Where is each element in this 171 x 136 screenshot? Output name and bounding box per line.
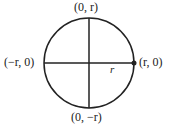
label-left: (−r, 0)	[4, 55, 34, 70]
label-top: (0, r)	[74, 0, 98, 15]
point-r-0	[132, 61, 137, 66]
label-radius: r	[110, 63, 114, 75]
label-bottom: (0, −r)	[71, 110, 102, 125]
label-right: (r, 0)	[139, 55, 163, 70]
